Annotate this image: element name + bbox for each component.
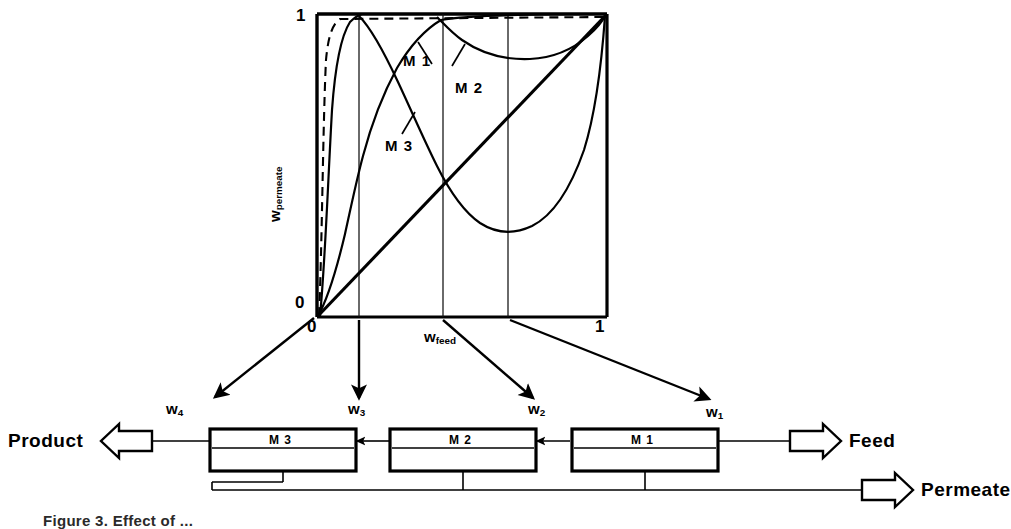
- x-axis-label: wfeed: [424, 328, 456, 346]
- x-tick-right: 1: [595, 317, 604, 337]
- stream-label-w4-main: w: [166, 400, 178, 417]
- feed-label: Feed: [849, 430, 895, 452]
- y-tick-top: 1: [296, 6, 305, 26]
- stream-label-w1-sub: 1: [718, 410, 724, 421]
- stream-label-w2: w2: [528, 400, 545, 418]
- curve-m2: [437, 16, 605, 59]
- mapping-arrow-w2: [443, 320, 533, 398]
- figure-caption: Figure 3. Effect of ...: [43, 512, 193, 529]
- curve-label-m2: M 2: [455, 79, 483, 96]
- y-axis-label-sub: permeate: [273, 166, 284, 210]
- module-label-m3: M 3: [269, 433, 292, 447]
- stream-label-w1: w1: [706, 403, 723, 421]
- stream-label-w2-sub: 2: [540, 407, 546, 418]
- y-tick-bottom: 0: [295, 293, 304, 313]
- x-axis-label-main: w: [424, 328, 436, 345]
- module-label-m1: M 1: [631, 433, 654, 447]
- stream-label-w4: w4: [166, 400, 183, 418]
- mapping-arrow-w1: [510, 320, 709, 399]
- product-label: Product: [8, 430, 83, 452]
- mapping-arrows: [215, 318, 709, 399]
- y-axis-label: wpermeate: [266, 166, 284, 222]
- permeate-manifold: [212, 471, 862, 490]
- module-label-m2: M 2: [449, 433, 472, 447]
- stream-label-w2-main: w: [528, 400, 540, 417]
- stream-label-w3-main: w: [348, 400, 360, 417]
- y-axis-label-main: w: [266, 210, 283, 222]
- stream-label-w3: w3: [348, 400, 365, 418]
- x-tick-left: 0: [307, 317, 316, 337]
- stream-label-w1-main: w: [706, 403, 718, 420]
- product-arrow-icon: [101, 424, 152, 458]
- stream-label-w4-sub: 4: [178, 407, 184, 418]
- plot-gridlines: [359, 14, 508, 317]
- x-axis-label-sub: feed: [436, 335, 456, 346]
- curve-label-m3: M 3: [385, 137, 413, 154]
- permeate-arrow-icon: [862, 473, 913, 507]
- feed-arrow-icon: [790, 424, 841, 458]
- curve-label-m1: M 1: [403, 52, 431, 69]
- mapping-arrow-w4: [215, 318, 314, 397]
- permeate-label: Permeate: [921, 479, 1011, 501]
- stream-label-w3-sub: 3: [360, 407, 366, 418]
